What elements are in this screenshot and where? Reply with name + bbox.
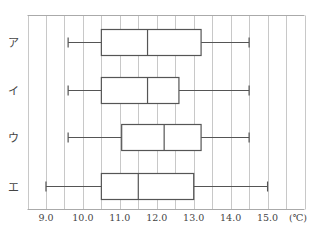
category-label: ア (8, 37, 19, 50)
iqr-box (101, 30, 201, 56)
iqr-box (122, 125, 201, 151)
category-labels: アイウエ (8, 37, 19, 194)
box-plot-chart: アイウエ 9.010.011.012.013.014.015.0(℃) (0, 0, 318, 233)
category-label: イ (8, 85, 19, 98)
x-axis-unit-label: (℃) (289, 212, 307, 223)
x-tick-label: 14.0 (220, 212, 241, 223)
box-plot-2 (68, 78, 249, 104)
x-axis-tick-labels: 9.010.011.012.013.014.015.0(℃) (38, 212, 307, 223)
x-tick-label: 11.0 (109, 212, 130, 223)
category-label: ウ (8, 132, 19, 145)
x-tick-label: 9.0 (38, 212, 53, 223)
box-plot-3 (68, 125, 249, 151)
x-tick-label: 13.0 (183, 212, 204, 223)
box-plot-4 (46, 174, 268, 200)
category-label: エ (8, 181, 19, 194)
box-plot-1 (68, 30, 249, 56)
box-plots (46, 30, 268, 200)
iqr-box (101, 78, 179, 104)
x-tick-label: 10.0 (72, 212, 93, 223)
x-tick-label: 12.0 (146, 212, 167, 223)
x-tick-label: 15.0 (257, 212, 278, 223)
iqr-box (101, 174, 193, 200)
